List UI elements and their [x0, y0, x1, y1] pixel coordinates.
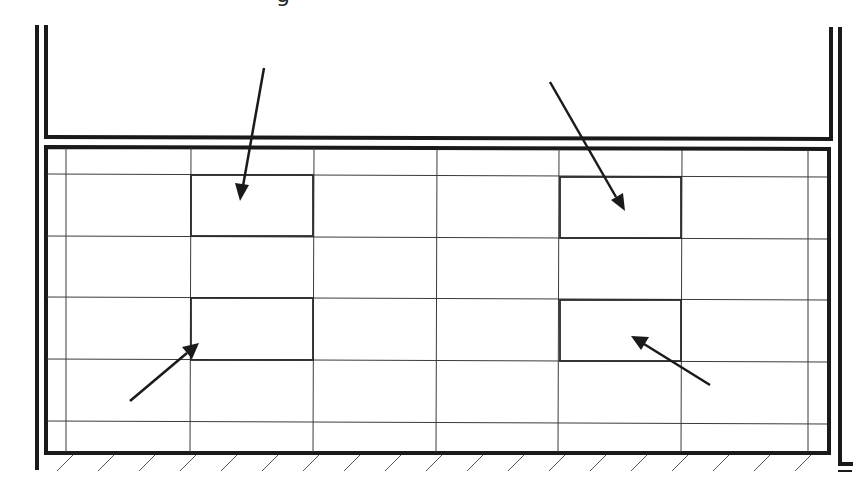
- container-walls: [37, 27, 852, 471]
- ground-hatch-mark: [262, 455, 278, 471]
- ground-hatch-mark: [467, 455, 483, 471]
- grid-row-4: [47, 359, 827, 362]
- ground-hatch-mark: [180, 455, 196, 471]
- ground-hatch: [57, 455, 811, 471]
- grid-col-4: [436, 149, 437, 452]
- grid-col-5: [558, 149, 559, 452]
- ground-hatch-mark: [795, 455, 811, 471]
- ground-hatch-mark: [57, 455, 73, 471]
- arrowhead-icon: [611, 193, 625, 211]
- ground-hatch-mark: [139, 455, 155, 471]
- ground-hatch-mark: [713, 455, 729, 471]
- ground-hatch-mark: [754, 455, 770, 471]
- upper-ledge-line: [46, 137, 830, 139]
- ground-hatch-mark: [426, 455, 442, 471]
- highlighted-cell-bottom-left: [191, 298, 313, 360]
- ground-hatch-mark: [508, 455, 524, 471]
- ground-hatch-mark: [303, 455, 319, 471]
- arrow-3-shaft: [130, 353, 187, 401]
- arrow-1-shaft: [243, 68, 264, 186]
- ground-hatch-mark: [98, 455, 114, 471]
- highlighted-cell-top-left: [191, 175, 313, 236]
- panel-grid: [47, 148, 827, 452]
- ground-hatch-mark: [672, 455, 688, 471]
- arrow-4-shaft: [644, 344, 710, 385]
- arrowhead-icon: [235, 183, 249, 201]
- ground-hatch-mark: [590, 455, 606, 471]
- arrow-1: [235, 68, 264, 201]
- arrowhead-icon: [631, 336, 649, 350]
- grid-row-5: [47, 421, 827, 424]
- highlighted-cell-top-right: [560, 177, 681, 238]
- ground-hatch-mark: [344, 455, 360, 471]
- clipped-title-fragment: g: [276, 0, 290, 7]
- container-cross-section-diagram: g: [0, 0, 866, 493]
- ground-hatch-mark: [221, 455, 237, 471]
- ground-hatch-mark: [385, 455, 401, 471]
- pointer-arrows: [130, 68, 710, 401]
- ground-hatch-mark: [631, 455, 647, 471]
- arrow-3: [130, 343, 199, 401]
- ground-hatch-mark: [549, 455, 565, 471]
- highlighted-cell-bottom-right: [560, 300, 681, 361]
